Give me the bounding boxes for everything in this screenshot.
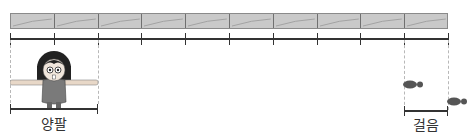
strip-segment (274, 14, 318, 28)
ruler-tick (54, 33, 55, 45)
arm-span-bracket (10, 108, 97, 110)
strip-segment (318, 14, 362, 28)
strip-segment (230, 14, 274, 28)
footprint-icon (403, 80, 423, 89)
ruler-tick (360, 33, 361, 45)
arm-span-label: 양팔 (10, 113, 98, 133)
strip-segment (99, 14, 143, 28)
girl-arms-outstretched-icon (10, 50, 98, 108)
footprint-icon (447, 97, 467, 106)
ruler-tick (141, 33, 142, 45)
step-bracket (404, 110, 448, 112)
step-label: 걸음 (402, 114, 450, 134)
ruler-tick (229, 33, 230, 45)
guide-dashed-line (98, 40, 99, 104)
strip-segment (55, 14, 99, 28)
strip-segment (11, 14, 55, 28)
ruler-tick (317, 33, 318, 45)
strip-segment (142, 14, 186, 28)
strip-segment (361, 14, 405, 28)
measured-strip (10, 13, 448, 29)
ruler-tick (273, 33, 274, 45)
strip-segment (405, 14, 448, 28)
strip-segment (186, 14, 230, 28)
ruler-tick (185, 33, 186, 45)
guide-dashed-line (404, 40, 405, 110)
